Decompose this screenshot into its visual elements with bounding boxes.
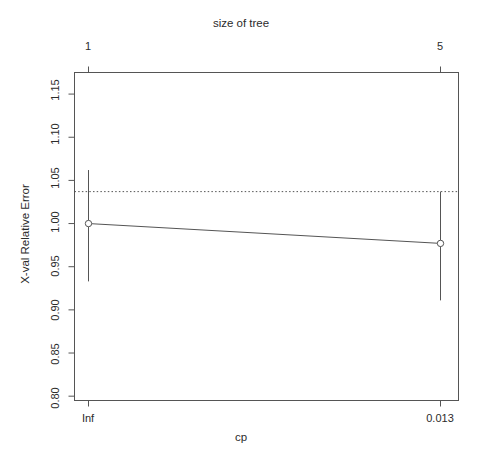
data-layer bbox=[75, 170, 459, 300]
rpart-cp-plot-figure: size of tree X-val Relative Error cp 1 5… bbox=[0, 0, 482, 455]
y-axis-ticks bbox=[69, 94, 75, 396]
data-point-1 bbox=[437, 240, 443, 246]
data-point-0 bbox=[85, 220, 91, 226]
series-line bbox=[89, 224, 441, 244]
x-axis-ticks bbox=[89, 67, 441, 407]
plot-canvas bbox=[0, 0, 482, 455]
error-bars bbox=[89, 170, 441, 300]
plot-box-frame bbox=[75, 73, 459, 401]
axes-layer bbox=[69, 67, 459, 407]
